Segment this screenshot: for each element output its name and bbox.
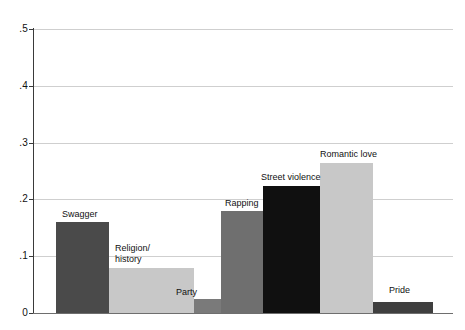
bar-rapping[interactable] <box>221 211 263 313</box>
bar-street-violence[interactable] <box>263 186 320 313</box>
bar-label-romantic-love: Romantic love <box>320 149 377 160</box>
bar-label-street-violence: Street violence <box>261 172 321 183</box>
y-tick-label-0.1: .1 <box>19 251 28 261</box>
y-tick-mark-0 <box>29 313 33 314</box>
y-tick-label-0: 0 <box>22 308 28 318</box>
bar-romantic-love[interactable] <box>320 163 373 314</box>
bar-chart: .5 .4 .3 .2 .1 0 Swagger Religion/ histo… <box>0 0 465 330</box>
bar-label-swagger: Swagger <box>62 209 98 220</box>
bar-label-rapping: Rapping <box>225 198 259 209</box>
bar-swagger[interactable] <box>56 222 109 313</box>
bar-label-pride: Pride <box>389 285 410 296</box>
y-tick-label-0.5: .5 <box>19 24 28 34</box>
y-tick-label-0.3: .3 <box>19 138 28 148</box>
y-tick-label-0.4: .4 <box>19 81 28 91</box>
bar-label-party: Party <box>176 287 197 298</box>
y-axis-labels: .5 .4 .3 .2 .1 0 <box>0 0 28 330</box>
bar-label-religion-history: Religion/ history <box>115 243 150 264</box>
bar-pride[interactable] <box>373 302 433 313</box>
plot-area <box>33 29 453 313</box>
x-axis-line <box>33 313 453 314</box>
y-tick-label-0.2: .2 <box>19 194 28 204</box>
